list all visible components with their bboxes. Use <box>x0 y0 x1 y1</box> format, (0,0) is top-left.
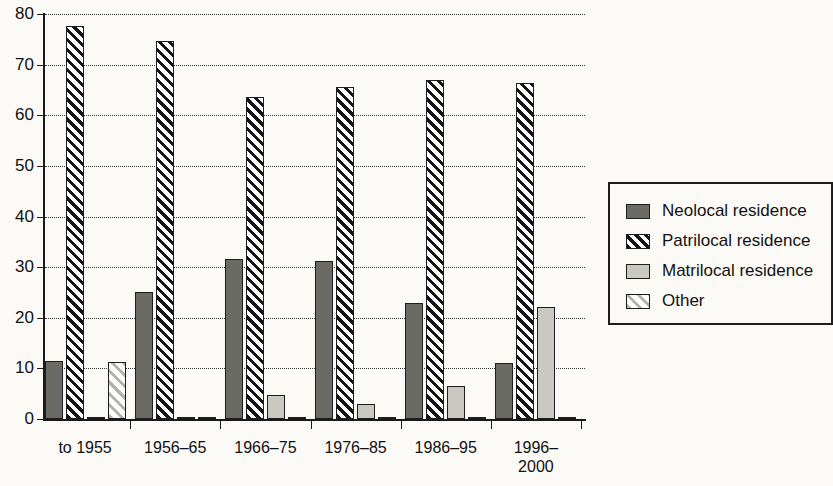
bar-matrilocal <box>87 417 105 419</box>
x-axis-tick <box>220 421 221 429</box>
bar-patrilocal <box>426 80 444 419</box>
bar-neolocal <box>495 363 513 419</box>
x-axis-tick <box>401 421 402 429</box>
legend-item[interactable]: Neolocal residence <box>626 196 813 226</box>
x-axis-tick <box>491 421 492 429</box>
legend-item[interactable]: Other <box>626 286 813 316</box>
legend-item[interactable]: Matrilocal residence <box>626 256 813 286</box>
y-axis-label: 10 <box>0 359 34 376</box>
legend-item[interactable]: Patrilocal residence <box>626 226 813 256</box>
legend-label: Patrilocal residence <box>662 232 810 250</box>
bar-patrilocal <box>246 97 264 419</box>
y-axis-tick <box>37 166 44 167</box>
bar-chart: 01020304050607080 to 19551956–651966–751… <box>0 0 833 486</box>
bar-neolocal <box>225 259 243 419</box>
legend-label: Matrilocal residence <box>662 262 813 280</box>
bar-neolocal <box>45 361 63 419</box>
x-axis-tick <box>311 421 312 429</box>
y-axis-label: 0 <box>0 410 34 427</box>
bar-neolocal <box>405 303 423 419</box>
x-axis-tick <box>130 421 131 429</box>
x-axis-line <box>43 419 586 421</box>
x-axis-tick <box>581 421 582 429</box>
bar-other <box>288 417 306 419</box>
legend-swatch-other <box>626 294 650 309</box>
bar-patrilocal <box>66 26 84 419</box>
legend-swatch-neolocal <box>626 204 650 219</box>
y-axis-tick <box>37 65 44 66</box>
x-axis-label: 1966–75 <box>215 438 315 457</box>
y-axis-label: 30 <box>0 258 34 275</box>
y-axis-label: 50 <box>0 157 34 174</box>
legend-label: Neolocal residence <box>662 202 807 220</box>
y-axis-tick <box>37 318 44 319</box>
bar-matrilocal <box>357 404 375 419</box>
bar-matrilocal <box>447 386 465 419</box>
x-axis-label: 1986–95 <box>396 438 496 457</box>
y-axis-tick <box>37 267 44 268</box>
x-axis-label: 1996– 2000 <box>486 438 586 476</box>
bar-matrilocal <box>537 307 555 419</box>
y-axis-label: 70 <box>0 56 34 73</box>
legend-swatch-matrilocal <box>626 264 650 279</box>
y-axis-tick <box>37 217 44 218</box>
bar-patrilocal <box>336 87 354 419</box>
bar-other <box>108 362 126 419</box>
bar-patrilocal <box>516 83 534 419</box>
y-axis-tick <box>37 368 44 369</box>
bar-other <box>558 417 576 419</box>
x-axis-label: 1956–65 <box>125 438 225 457</box>
bar-other <box>198 417 216 419</box>
legend-list: Neolocal residencePatrilocal residenceMa… <box>626 196 813 316</box>
bar-other <box>378 417 396 419</box>
y-axis-label: 40 <box>0 208 34 225</box>
bar-neolocal <box>315 261 333 419</box>
y-axis-tick <box>37 419 44 420</box>
y-axis-label: 60 <box>0 106 34 123</box>
y-axis-tick <box>37 14 44 15</box>
plot-area <box>44 14 585 419</box>
bar-matrilocal <box>177 417 195 419</box>
bar-neolocal <box>135 292 153 419</box>
y-axis-label: 20 <box>0 309 34 326</box>
legend-swatch-patrilocal <box>626 234 650 249</box>
bar-other <box>468 417 486 419</box>
bar-patrilocal <box>156 41 174 419</box>
x-axis-label: to 1955 <box>35 438 135 457</box>
y-axis-tick <box>37 115 44 116</box>
y-axis-label: 80 <box>0 5 34 22</box>
bar-matrilocal <box>267 395 285 419</box>
x-axis-label: 1976–85 <box>306 438 406 457</box>
legend-label: Other <box>662 292 705 310</box>
legend: Neolocal residencePatrilocal residenceMa… <box>608 182 833 325</box>
